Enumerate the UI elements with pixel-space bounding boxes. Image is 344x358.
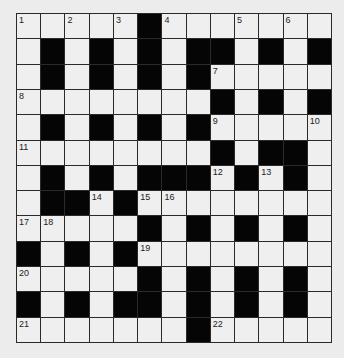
- answer-cell[interactable]: [162, 141, 185, 165]
- answer-cell[interactable]: [162, 318, 185, 342]
- answer-cell[interactable]: [17, 115, 40, 139]
- answer-cell[interactable]: [259, 267, 282, 291]
- answer-cell[interactable]: 6: [284, 14, 307, 38]
- answer-cell[interactable]: [235, 115, 258, 139]
- answer-cell[interactable]: [65, 90, 88, 114]
- answer-cell[interactable]: [114, 39, 137, 63]
- answer-cell[interactable]: [41, 141, 64, 165]
- answer-cell[interactable]: 16: [162, 191, 185, 215]
- answer-cell[interactable]: 20: [17, 267, 40, 291]
- answer-cell[interactable]: 3: [114, 14, 137, 38]
- answer-cell[interactable]: [41, 90, 64, 114]
- answer-cell[interactable]: [235, 39, 258, 63]
- answer-cell[interactable]: 5: [235, 14, 258, 38]
- answer-cell[interactable]: [211, 216, 234, 240]
- answer-cell[interactable]: [41, 14, 64, 38]
- answer-cell[interactable]: [90, 292, 113, 316]
- answer-cell[interactable]: [211, 292, 234, 316]
- answer-cell[interactable]: [90, 267, 113, 291]
- answer-cell[interactable]: [308, 292, 331, 316]
- answer-cell[interactable]: [17, 166, 40, 190]
- answer-cell[interactable]: 21: [17, 318, 40, 342]
- answer-cell[interactable]: [90, 90, 113, 114]
- answer-cell[interactable]: [114, 65, 137, 89]
- answer-cell[interactable]: 22: [211, 318, 234, 342]
- answer-cell[interactable]: [65, 318, 88, 342]
- answer-cell[interactable]: [114, 318, 137, 342]
- answer-cell[interactable]: [90, 318, 113, 342]
- answer-cell[interactable]: [41, 292, 64, 316]
- answer-cell[interactable]: [65, 166, 88, 190]
- answer-cell[interactable]: [308, 65, 331, 89]
- answer-cell[interactable]: [65, 115, 88, 139]
- answer-cell[interactable]: 11: [17, 141, 40, 165]
- answer-cell[interactable]: [308, 166, 331, 190]
- answer-cell[interactable]: [308, 141, 331, 165]
- answer-cell[interactable]: [17, 39, 40, 63]
- answer-cell[interactable]: [284, 318, 307, 342]
- answer-cell[interactable]: [259, 242, 282, 266]
- answer-cell[interactable]: [308, 14, 331, 38]
- answer-cell[interactable]: [235, 318, 258, 342]
- answer-cell[interactable]: [308, 318, 331, 342]
- answer-cell[interactable]: [17, 65, 40, 89]
- answer-cell[interactable]: [284, 90, 307, 114]
- answer-cell[interactable]: [284, 115, 307, 139]
- answer-cell[interactable]: [114, 115, 137, 139]
- answer-cell[interactable]: [259, 318, 282, 342]
- answer-cell[interactable]: [65, 65, 88, 89]
- answer-cell[interactable]: [259, 14, 282, 38]
- answer-cell[interactable]: [17, 191, 40, 215]
- answer-cell[interactable]: [308, 216, 331, 240]
- answer-cell[interactable]: 14: [90, 191, 113, 215]
- answer-cell[interactable]: 4: [162, 14, 185, 38]
- answer-cell[interactable]: [65, 39, 88, 63]
- answer-cell[interactable]: [187, 90, 210, 114]
- answer-cell[interactable]: 18: [41, 216, 64, 240]
- answer-cell[interactable]: [90, 141, 113, 165]
- answer-cell[interactable]: [187, 242, 210, 266]
- answer-cell[interactable]: [308, 267, 331, 291]
- answer-cell[interactable]: 12: [211, 166, 234, 190]
- answer-cell[interactable]: [259, 191, 282, 215]
- answer-cell[interactable]: 19: [138, 242, 161, 266]
- answer-cell[interactable]: [114, 90, 137, 114]
- answer-cell[interactable]: [259, 65, 282, 89]
- answer-cell[interactable]: [259, 115, 282, 139]
- answer-cell[interactable]: [90, 216, 113, 240]
- answer-cell[interactable]: [235, 242, 258, 266]
- answer-cell[interactable]: [41, 242, 64, 266]
- answer-cell[interactable]: [114, 216, 137, 240]
- answer-cell[interactable]: 13: [259, 166, 282, 190]
- answer-cell[interactable]: [235, 65, 258, 89]
- answer-cell[interactable]: [284, 242, 307, 266]
- answer-cell[interactable]: [259, 216, 282, 240]
- answer-cell[interactable]: [41, 267, 64, 291]
- answer-cell[interactable]: [65, 267, 88, 291]
- answer-cell[interactable]: 1: [17, 14, 40, 38]
- answer-cell[interactable]: [162, 242, 185, 266]
- answer-cell[interactable]: [162, 115, 185, 139]
- answer-cell[interactable]: [211, 267, 234, 291]
- answer-cell[interactable]: [114, 267, 137, 291]
- answer-cell[interactable]: [211, 14, 234, 38]
- answer-cell[interactable]: [284, 39, 307, 63]
- answer-cell[interactable]: 7: [211, 65, 234, 89]
- answer-cell[interactable]: [114, 166, 137, 190]
- answer-cell[interactable]: [308, 242, 331, 266]
- answer-cell[interactable]: [65, 141, 88, 165]
- answer-cell[interactable]: [187, 14, 210, 38]
- answer-cell[interactable]: 17: [17, 216, 40, 240]
- answer-cell[interactable]: [187, 141, 210, 165]
- answer-cell[interactable]: 2: [65, 14, 88, 38]
- answer-cell[interactable]: [211, 191, 234, 215]
- answer-cell[interactable]: [162, 216, 185, 240]
- answer-cell[interactable]: [90, 242, 113, 266]
- answer-cell[interactable]: [41, 318, 64, 342]
- answer-cell[interactable]: [308, 191, 331, 215]
- answer-cell[interactable]: 15: [138, 191, 161, 215]
- answer-cell[interactable]: [65, 216, 88, 240]
- answer-cell[interactable]: 8: [17, 90, 40, 114]
- answer-cell[interactable]: [138, 318, 161, 342]
- answer-cell[interactable]: [284, 65, 307, 89]
